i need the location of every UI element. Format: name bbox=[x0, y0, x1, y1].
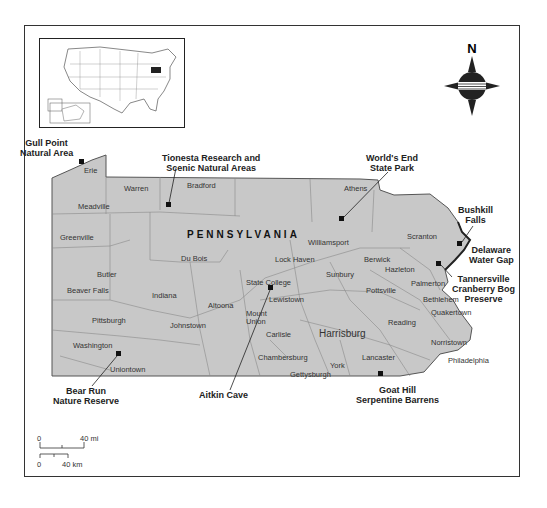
city-label: Palmerton bbox=[411, 279, 445, 288]
city-label: Harrisburg bbox=[319, 328, 366, 339]
city-label: Johnstown bbox=[170, 321, 206, 330]
site-label: Goat HillSerpentine Barrens bbox=[356, 385, 439, 405]
scale-km-zero: 0 bbox=[37, 460, 41, 469]
city-label: Reading bbox=[388, 318, 416, 327]
city-label: Bradford bbox=[187, 181, 216, 190]
city-label: State College bbox=[246, 278, 291, 287]
city-label: Sunbury bbox=[326, 270, 354, 279]
site-label-line: Aitkin Cave bbox=[199, 390, 248, 400]
city-label: Quakertown bbox=[431, 308, 471, 317]
city-label: Pittsburgh bbox=[92, 316, 126, 325]
site-label-line: Water Gap bbox=[469, 255, 514, 265]
site-label-line: Goat Hill bbox=[356, 385, 439, 395]
site-label-line: Preserve bbox=[452, 294, 515, 304]
site-label-line: Scenic Natural Areas bbox=[162, 163, 260, 173]
site-label: Bear RunNature Reserve bbox=[53, 386, 119, 406]
site-label: World's EndState Park bbox=[366, 153, 418, 173]
site-label-line: Tionesta Research and bbox=[162, 153, 260, 163]
city-label: Philadelphia bbox=[448, 356, 489, 365]
site-label: BushkillFalls bbox=[458, 205, 493, 225]
site-label-line: Tannersville bbox=[452, 274, 515, 284]
city-label: Carlisle bbox=[266, 330, 291, 339]
city-label: Washington bbox=[73, 341, 112, 350]
city-label: Altoona bbox=[208, 301, 233, 310]
city-label: Indiana bbox=[152, 291, 177, 300]
site-label-line: Delaware bbox=[469, 245, 514, 255]
site-label-line: Falls bbox=[458, 215, 493, 225]
site-label-line: Serpentine Barrens bbox=[356, 395, 439, 405]
city-label: Lewistown bbox=[269, 295, 304, 304]
city-label: Williamsport bbox=[308, 238, 349, 247]
site-label-line: Cranberry Bog bbox=[452, 284, 515, 294]
city-label: Berwick bbox=[364, 255, 390, 264]
city-label: Norristown bbox=[431, 338, 467, 347]
scale-bar bbox=[40, 442, 84, 458]
city-label: Pottsville bbox=[366, 286, 396, 295]
site-label-line: Bushkill bbox=[458, 205, 493, 215]
city-label: Scranton bbox=[407, 232, 437, 241]
city-label: Du Bois bbox=[181, 254, 207, 263]
site-label-line: Natural Area bbox=[20, 148, 73, 158]
site-label-line: Gull Point bbox=[20, 138, 73, 148]
city-label: Lock Haven bbox=[275, 255, 315, 264]
site-label: Tionesta Research andScenic Natural Area… bbox=[162, 153, 260, 173]
city-label: Beaver Falls bbox=[67, 286, 109, 295]
scale-mi-label: 40 mi bbox=[80, 434, 98, 443]
pennsylvania-map bbox=[0, 0, 547, 508]
site-label-line: World's End bbox=[366, 153, 418, 163]
site-label: Aitkin Cave bbox=[199, 390, 248, 400]
site-label-line: State Park bbox=[366, 163, 418, 173]
city-label: Hazleton bbox=[385, 265, 415, 274]
city-label: Warren bbox=[124, 184, 148, 193]
site-label: Gull PointNatural Area bbox=[20, 138, 73, 158]
city-label: Chambersburg bbox=[258, 353, 308, 362]
state-label: PENNSYLVANIA bbox=[187, 229, 300, 240]
city-label: Uniontown bbox=[110, 365, 145, 374]
site-label: TannersvilleCranberry BogPreserve bbox=[452, 274, 515, 304]
city-label: Athens bbox=[344, 184, 367, 193]
city-label: Meadville bbox=[78, 202, 110, 211]
site-label: DelawareWater Gap bbox=[469, 245, 514, 265]
city-label: Erie bbox=[84, 166, 97, 175]
city-label: Lancaster bbox=[362, 353, 395, 362]
scale-km-label: 40 km bbox=[62, 460, 82, 469]
city-label: Greenville bbox=[60, 233, 94, 242]
city-label: Gettysburgh bbox=[290, 370, 331, 379]
scale-mi-zero: 0 bbox=[37, 434, 41, 443]
site-label-line: Nature Reserve bbox=[53, 396, 119, 406]
city-label: York bbox=[330, 361, 345, 370]
city-label: Butler bbox=[97, 270, 117, 279]
city-label: Union bbox=[246, 317, 266, 326]
site-label-line: Bear Run bbox=[53, 386, 119, 396]
